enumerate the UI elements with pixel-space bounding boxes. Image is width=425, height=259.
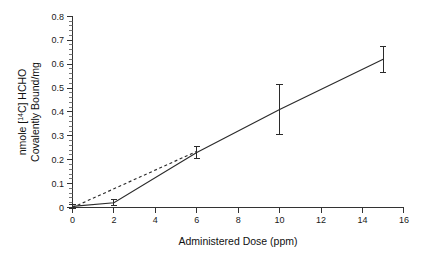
y-tick-label: 0.5 bbox=[51, 83, 64, 93]
x-tick-label: 6 bbox=[194, 215, 199, 225]
error-bar bbox=[380, 46, 386, 72]
x-tick-label: 0 bbox=[70, 215, 75, 225]
x-axis-ticks: 0 2 4 6 8 10 12 14 16 bbox=[70, 208, 409, 226]
error-bar bbox=[194, 147, 200, 159]
series-line-dashed bbox=[73, 151, 197, 207]
data-series-layer bbox=[69, 46, 386, 208]
y-tick-label: 0.3 bbox=[51, 131, 64, 141]
x-tick-label: 8 bbox=[236, 215, 241, 225]
x-tick-label: 16 bbox=[399, 215, 409, 225]
y-axis-ticks: 0 0.1 0.2 0.3 0.4 0.5 0.6 0.7 0.8 bbox=[51, 12, 72, 213]
y-tick-label: 0.2 bbox=[51, 155, 64, 165]
y-axis-title-line1: nmole [14C] HCHO bbox=[16, 69, 28, 156]
x-tick-label: 10 bbox=[275, 215, 285, 225]
y-axis-title-line2: Covalently Bound/mg bbox=[29, 62, 41, 162]
y-tick-label: 0.8 bbox=[51, 12, 64, 22]
y-tick-label: 0.1 bbox=[51, 179, 64, 189]
x-axis-title: Administered Dose (ppm) bbox=[178, 235, 297, 247]
series-line-solid bbox=[73, 59, 384, 206]
y-tick-label: 0 bbox=[59, 203, 64, 213]
error-bar bbox=[276, 84, 282, 134]
y-axis-title: nmole [14C] HCHO Covalently Bound/mg bbox=[16, 62, 41, 162]
chart-figure: 0 0.1 0.2 0.3 0.4 0.5 0.6 0.7 0.8 0 2 bbox=[0, 0, 425, 259]
y-tick-label: 0.7 bbox=[51, 35, 64, 45]
x-tick-label: 14 bbox=[357, 215, 367, 225]
x-tick-label: 4 bbox=[153, 215, 158, 225]
x-tick-label: 12 bbox=[316, 215, 326, 225]
chart-plot-area: 0 0.1 0.2 0.3 0.4 0.5 0.6 0.7 0.8 0 2 bbox=[0, 0, 425, 259]
y-tick-label: 0.6 bbox=[51, 59, 64, 69]
y-tick-label: 0.4 bbox=[51, 107, 64, 117]
x-tick-label: 2 bbox=[111, 215, 116, 225]
